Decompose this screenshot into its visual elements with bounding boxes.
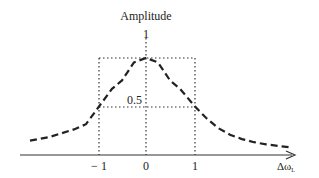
x-tick-neg1: − 1	[91, 159, 107, 173]
lorentzian-curve	[30, 58, 290, 147]
x-tick-0: 0	[143, 159, 149, 173]
x-axis-title: ΔωL	[277, 160, 295, 173]
y-axis-title: Amplitude	[120, 9, 171, 23]
y-tick-0-5: 0.5	[127, 93, 142, 107]
x-tick-1: 1	[192, 159, 198, 173]
lorentzian-diagram: Amplitude 1 0.5 − 1 0 1 ΔωL	[0, 0, 319, 178]
x-axis-title-main: Δω	[277, 160, 291, 172]
x-axis-title-subscript: L	[291, 167, 295, 173]
y-tick-1: 1	[143, 27, 149, 41]
